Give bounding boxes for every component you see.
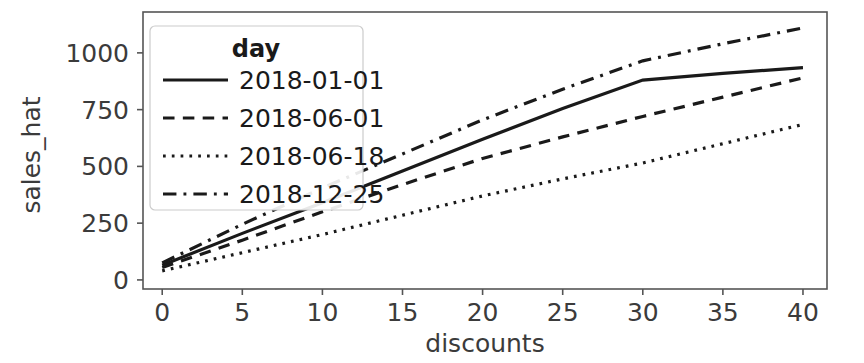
x-tick-label: 5 [234, 298, 250, 327]
line-chart: 0510152025303540 02505007501000 discount… [0, 0, 864, 363]
legend-title: day [232, 35, 281, 63]
y-tick-label: 500 [81, 152, 129, 181]
legend-label: 2018-01-01 [239, 66, 384, 95]
y-tick-label: 250 [81, 209, 129, 238]
legend-label: 2018-06-01 [239, 104, 384, 133]
legend-label: 2018-12-25 [239, 180, 384, 209]
x-tick-label: 35 [707, 298, 739, 327]
x-tick-label: 40 [787, 298, 819, 327]
x-tick-label: 30 [627, 298, 659, 327]
y-tick-label: 1000 [65, 39, 129, 68]
y-tick-label: 0 [113, 266, 129, 295]
x-tick-label: 15 [387, 298, 419, 327]
x-tick-label: 0 [154, 298, 170, 327]
y-axis-label: sales_hat [17, 96, 46, 213]
chart-legend[interactable]: day 2018-01-012018-06-012018-06-182018-1… [150, 26, 384, 210]
y-tick-label: 750 [81, 96, 129, 125]
x-axis-label: discounts [425, 329, 544, 358]
x-tick-label: 10 [307, 298, 339, 327]
legend-label: 2018-06-18 [239, 142, 384, 171]
x-tick-label: 25 [547, 298, 579, 327]
chart-figure: 0510152025303540 02505007501000 discount… [0, 0, 864, 363]
x-tick-label: 20 [467, 298, 499, 327]
